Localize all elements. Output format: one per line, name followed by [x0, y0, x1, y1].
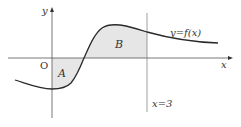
graph-canvas: y O A B y=f(x) x x=3: [0, 0, 241, 127]
y-axis-arrow-icon: [50, 7, 54, 12]
region-b-label: B: [114, 38, 123, 51]
x-axis-label: x: [221, 59, 227, 70]
region-a-shade: [52, 58, 84, 89]
line-x3-label: x=3: [152, 98, 172, 109]
figure: y O A B y=f(x) x x=3: [0, 0, 241, 127]
x-axis-arrow-icon: [228, 56, 233, 60]
origin-label: O: [40, 60, 48, 71]
y-axis-label: y: [41, 5, 48, 16]
curve-label: y=f(x): [169, 27, 201, 38]
region-a-label: A: [57, 67, 66, 80]
